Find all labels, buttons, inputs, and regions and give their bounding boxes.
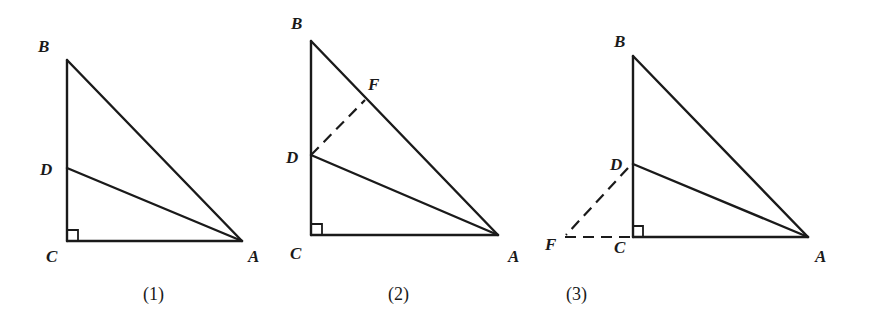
label-a: A [507,247,519,266]
segment-ab [67,60,242,241]
segment-df-dashed [566,168,628,235]
label-c: C [46,247,58,266]
caption-2: (2) [388,284,409,305]
segment-da [311,155,498,235]
label-a: A [247,247,259,266]
label-a: A [814,247,826,266]
figure-3: B D F C A (3) [544,32,826,305]
geometry-figures: B D C A (1) B F D C A (2) B D F C A (3) [0,0,869,317]
segment-ab [633,56,808,237]
figure-2: B F D C A (2) [285,14,519,305]
label-d: D [285,148,298,167]
right-angle-icon [67,230,78,241]
label-d: D [609,155,622,174]
segment-da [67,168,242,241]
segment-da [633,164,808,237]
caption-3: (3) [566,284,587,305]
figure-1: B D C A (1) [37,37,259,305]
segment-df-dashed [311,100,365,155]
caption-1: (1) [143,284,164,305]
segment-ab [311,41,498,235]
label-f: F [367,75,380,94]
label-c: C [614,238,626,257]
label-d: D [39,160,52,179]
label-c: C [290,244,302,263]
right-angle-icon [311,224,322,235]
label-b: B [290,14,302,33]
right-angle-icon [633,226,643,237]
label-f: F [544,235,557,254]
label-b: B [613,32,625,51]
label-b: B [37,37,49,56]
